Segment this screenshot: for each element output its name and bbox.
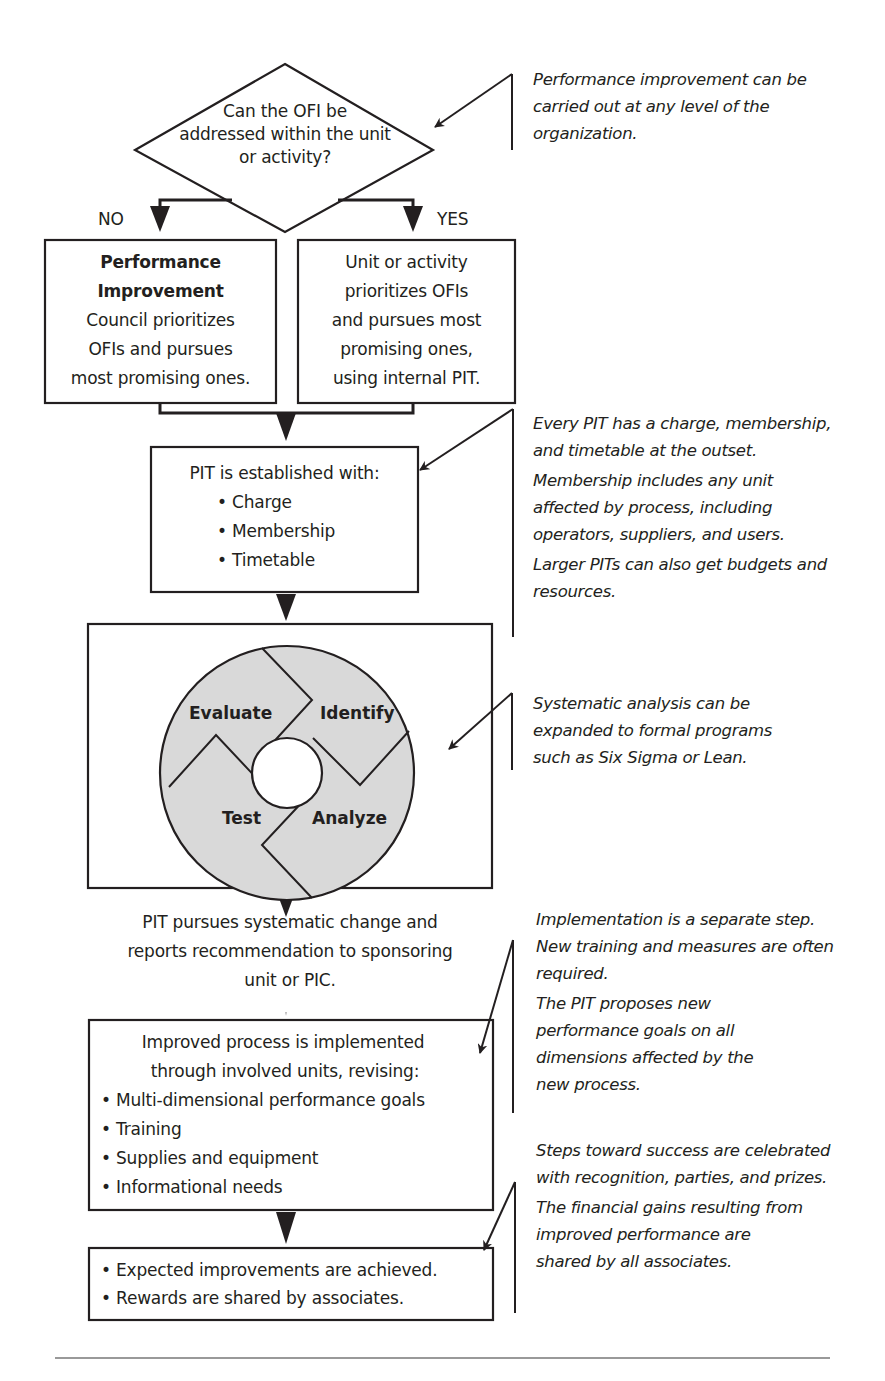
note-systematic-analysis: Systematic analysis can be expanded to f… bbox=[533, 690, 813, 774]
pit-item-timetable: • Timetable bbox=[217, 546, 418, 575]
yes-box: Unit or activity prioritizes OFIs and pu… bbox=[298, 248, 515, 393]
cycle-wheel bbox=[160, 646, 414, 900]
no-box-title: Improvement bbox=[45, 277, 276, 306]
note-implementation: Implementation is a separate step. New t… bbox=[536, 906, 846, 1101]
decision-line: Can the OFI be bbox=[165, 100, 405, 123]
pursue-line: unit or PIC. bbox=[88, 966, 492, 995]
pit-item-charge: • Charge bbox=[217, 488, 418, 517]
no-box-line: most promising ones. bbox=[45, 364, 276, 393]
result-box: • Expected improvements are achieved. • … bbox=[101, 1256, 491, 1312]
implement-item: • Training bbox=[101, 1115, 493, 1144]
yes-box-line: using internal PIT. bbox=[298, 364, 515, 393]
decision-line: or activity? bbox=[165, 146, 405, 169]
note-paragraph: Implementation is a separate step. New t… bbox=[536, 906, 846, 987]
implement-item: • Multi-dimensional performance goals bbox=[101, 1086, 493, 1115]
implement-box: Improved process is implemented through … bbox=[89, 1028, 493, 1202]
implement-item: • Supplies and equipment bbox=[101, 1144, 493, 1173]
note-paragraph: Every PIT has a charge, membership, and … bbox=[533, 410, 843, 464]
cycle-segment-analyze: Analyze bbox=[312, 808, 387, 828]
no-box: Performance Improvement Council prioriti… bbox=[45, 248, 276, 393]
implement-heading: through involved units, revising: bbox=[89, 1057, 493, 1086]
decision-text: Can the OFI be addressed within the unit… bbox=[165, 100, 405, 169]
yes-box-line: Unit or activity bbox=[298, 248, 515, 277]
note-paragraph: The PIT proposes new performance goals o… bbox=[536, 990, 786, 1098]
implement-list: • Multi-dimensional performance goals • … bbox=[89, 1086, 493, 1202]
decision-line: addressed within the unit bbox=[165, 123, 405, 146]
note-pit-setup: Every PIT has a charge, membership, and … bbox=[533, 410, 843, 608]
no-label: NO bbox=[98, 207, 124, 232]
pit-item-membership: • Membership bbox=[217, 517, 418, 546]
note-paragraph: Larger PITs can also get budgets and res… bbox=[533, 551, 843, 605]
no-box-title: Performance bbox=[45, 248, 276, 277]
cycle-segment-identify: Identify bbox=[320, 703, 395, 723]
note-paragraph: Performance improvement can be carried o… bbox=[533, 66, 843, 147]
result-item: • Rewards are shared by associates. bbox=[101, 1284, 491, 1312]
merge-line bbox=[160, 403, 413, 413]
note-success: Steps toward success are celebrated with… bbox=[536, 1137, 836, 1278]
yes-label: YES bbox=[437, 207, 468, 232]
yes-box-line: promising ones, bbox=[298, 335, 515, 364]
pursue-line: PIT pursues systematic change and bbox=[88, 908, 492, 937]
cycle-segment-evaluate: Evaluate bbox=[189, 703, 272, 723]
pit-box-list: • Charge • Membership • Timetable bbox=[151, 488, 418, 575]
pursue-line: reports recommendation to sponsoring bbox=[88, 937, 492, 966]
note-paragraph: The financial gains resulting from impro… bbox=[536, 1194, 806, 1275]
cycle-segment-test: Test bbox=[222, 808, 261, 828]
note-paragraph: Membership includes any unit affected by… bbox=[533, 467, 843, 548]
result-item: • Expected improvements are achieved. bbox=[101, 1256, 491, 1284]
note-levels: Performance improvement can be carried o… bbox=[533, 66, 843, 150]
note-paragraph: Steps toward success are celebrated with… bbox=[536, 1137, 836, 1191]
pursue-box: PIT pursues systematic change and report… bbox=[88, 908, 492, 995]
no-box-line: Council prioritizes bbox=[45, 306, 276, 335]
implement-item: • Informational needs bbox=[101, 1173, 493, 1202]
implement-heading: Improved process is implemented bbox=[89, 1028, 493, 1057]
pit-box-heading: PIT is established with: bbox=[151, 458, 418, 488]
yes-branch-line bbox=[338, 200, 413, 214]
yes-box-line: and pursues most bbox=[298, 306, 515, 335]
no-branch-line bbox=[160, 200, 232, 214]
pit-box: PIT is established with: • Charge • Memb… bbox=[151, 458, 418, 575]
note-paragraph: Systematic analysis can be expanded to f… bbox=[533, 690, 813, 771]
yes-box-line: prioritizes OFIs bbox=[298, 277, 515, 306]
no-box-line: OFIs and pursues bbox=[45, 335, 276, 364]
